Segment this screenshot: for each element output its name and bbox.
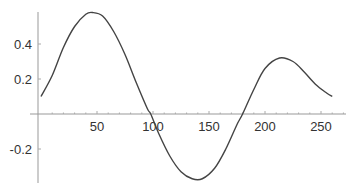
line-chart: 50100150200250 -0.20.20.4 [0,0,357,192]
data-curve [41,12,332,180]
x-tick-label: 50 [90,119,104,134]
y-tick-label: 0.2 [14,72,32,87]
x-tick-label: 250 [310,119,332,134]
x-tick-label: 150 [198,119,220,134]
y-tick-label: -0.2 [10,142,32,157]
x-axis: 50100150200250 [30,111,346,134]
y-axis: -0.20.20.4 [10,12,41,183]
x-tick-label: 200 [254,119,276,134]
y-ticks: -0.20.20.4 [10,37,41,157]
y-tick-label: 0.4 [14,37,32,52]
